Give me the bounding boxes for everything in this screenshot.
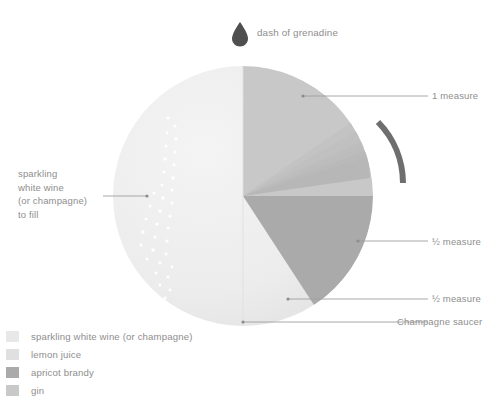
legend-label: sparkling white wine (or champagne) [31, 331, 193, 342]
sparkling-wine-label: sparkling white wine (or champagne) to f… [18, 167, 87, 221]
legend-item: gin [6, 381, 236, 399]
legend-label: apricot brandy [31, 367, 94, 378]
measure-top-label: 1 measure [432, 89, 478, 103]
measure-middle-label: ½ measure [432, 235, 481, 249]
glass-rim-arc [371, 120, 403, 186]
grenadine-label: dash of grenadine [257, 26, 338, 40]
legend: sparkling white wine (or champagne) lemo… [6, 327, 236, 399]
measure-bottom-label: ½ measure [432, 292, 481, 306]
legend-item: apricot brandy [6, 363, 236, 381]
cocktail-diagram: dash of grenadine sparkling white wine (… [0, 0, 496, 417]
legend-swatch-apricot-brandy [6, 367, 19, 378]
legend-swatch-gin [6, 385, 19, 396]
legend-swatch-lemon-juice [6, 349, 19, 360]
legend-item: sparkling white wine (or champagne) [6, 327, 236, 345]
legend-label: lemon juice [31, 349, 81, 360]
glassware-label: Champagne saucer [397, 315, 482, 329]
legend-item: lemon juice [6, 345, 236, 363]
legend-swatch-sparkling-wine [6, 331, 19, 342]
legend-label: gin [31, 385, 44, 396]
droplet-icon [232, 22, 248, 47]
